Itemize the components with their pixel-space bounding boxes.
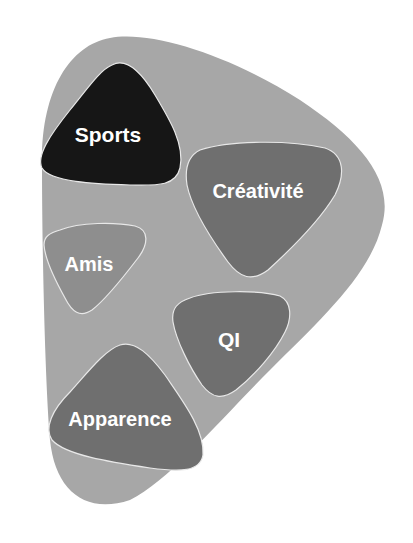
label-creativite: Créativité — [212, 180, 303, 202]
label-sports: Sports — [75, 123, 142, 146]
label-apparence: Apparence — [68, 408, 171, 430]
label-amis: Amis — [65, 253, 114, 275]
self-concept-diagram: Sports Créativité Amis QI Apparence — [0, 0, 413, 543]
label-qi: QI — [218, 328, 240, 351]
